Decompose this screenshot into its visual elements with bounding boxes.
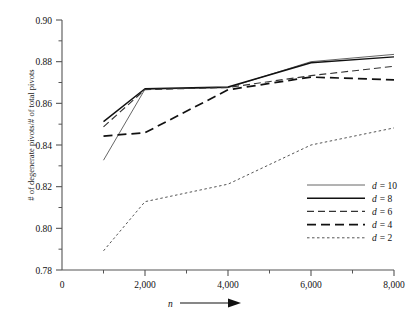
x-axis-label: n — [168, 299, 173, 309]
chart-legend: d= 10d= 8d= 6d= 4d= 2 — [307, 181, 397, 244]
legend-label-d-4: d= 4 — [372, 220, 392, 230]
x-tick-label: 8,000 — [383, 280, 405, 290]
x-axis-arrow-annotation: n — [168, 299, 241, 310]
data-series-group — [104, 54, 395, 250]
legend-label-d-10: d= 10 — [372, 181, 397, 191]
x-tick-label: 4,000 — [217, 280, 239, 290]
legend-label-d-8: d= 8 — [372, 194, 392, 204]
series-line-d-6 — [104, 66, 395, 127]
y-tick-label: 0.84 — [35, 141, 52, 151]
x-tick-label: 2,000 — [134, 280, 156, 290]
x-tick-label: 0 — [60, 280, 65, 290]
legend-label-d-2: d= 2 — [372, 233, 392, 243]
y-tick-label: 0.88 — [35, 57, 52, 67]
x-axis-ticks: 02,0004,0006,0008,000 — [60, 270, 405, 290]
y-tick-label: 0.90 — [35, 16, 52, 26]
y-tick-label: 0.86 — [35, 99, 52, 109]
series-line-d-2 — [104, 128, 395, 251]
y-tick-label: 0.82 — [35, 182, 52, 192]
chart-canvas: 0.780.800.820.840.860.880.90 02,0004,000… — [0, 0, 407, 322]
series-line-d-4 — [104, 77, 395, 136]
figure-container: # of degenerate pivots/# of total pivots… — [0, 0, 407, 322]
x-tick-label: 6,000 — [300, 280, 322, 290]
y-axis-label: # of degenerate pivots/# of total pivots — [26, 35, 36, 235]
legend-label-d-6: d= 6 — [372, 207, 392, 217]
y-tick-label: 0.78 — [35, 266, 52, 276]
series-line-d-10 — [104, 54, 395, 160]
y-axis-ticks: 0.780.800.820.840.860.880.90 — [35, 16, 62, 276]
y-tick-label: 0.80 — [35, 224, 52, 234]
